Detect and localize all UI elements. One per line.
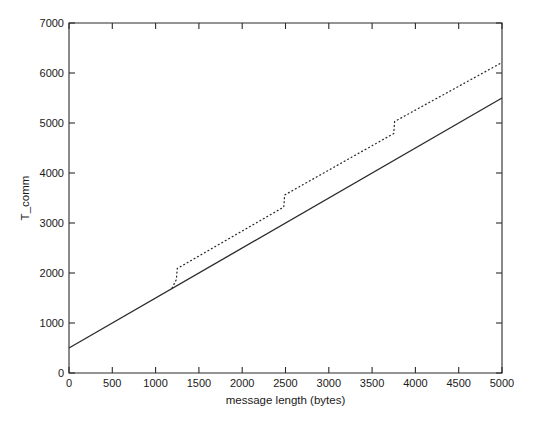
x-tick-label-4000: 4000 [403,377,427,389]
x-tick-label-1500: 1500 [187,377,211,389]
y-tick-label-0: 0 [58,367,64,379]
x-tick-label-0: 0 [66,377,72,389]
chart-figure: 0 1000 2000 3000 4000 5000 6000 7000 0 5… [0,0,536,429]
y-tick-label-5000: 5000 [40,117,64,129]
y-tick-label-1000: 1000 [40,317,64,329]
x-tick-label-500: 500 [103,377,121,389]
y-tick-label-3000: 3000 [40,217,64,229]
x-tick-label-5000: 5000 [490,377,514,389]
series-dotted-line [172,63,502,289]
chart-canvas: 0 1000 2000 3000 4000 5000 6000 7000 0 5… [0,0,536,429]
x-tick-label-1000: 1000 [143,377,167,389]
x-tick-label-3000: 3000 [317,377,341,389]
x-axis-ticks [69,23,502,373]
y-tick-label-7000: 7000 [40,17,64,29]
axis-frame [69,23,502,373]
x-tick-label-2500: 2500 [273,377,297,389]
y-tick-label-6000: 6000 [40,67,64,79]
y-axis-title: T_comm [19,176,31,221]
axes-box [69,23,502,373]
y-tick-labels: 0 1000 2000 3000 4000 5000 6000 7000 [40,17,64,379]
x-tick-label-4500: 4500 [446,377,470,389]
y-tick-label-2000: 2000 [40,267,64,279]
x-axis-title: message length (bytes) [226,394,346,406]
x-tick-labels: 0 500 1000 1500 2000 2500 3000 3500 4000… [66,377,514,389]
series-solid-line [69,98,502,348]
y-tick-label-4000: 4000 [40,167,64,179]
x-tick-label-2000: 2000 [230,377,254,389]
x-tick-label-3500: 3500 [360,377,384,389]
data-series [69,63,502,349]
y-axis-ticks [69,23,502,373]
